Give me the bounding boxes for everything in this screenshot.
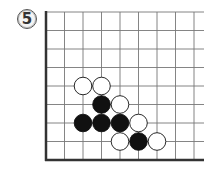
white-stone[interactable] (148, 133, 166, 151)
black-stone[interactable] (93, 114, 111, 132)
white-stone[interactable] (74, 77, 92, 95)
black-stone[interactable] (130, 133, 148, 151)
white-stone[interactable] (130, 114, 148, 132)
white-stone[interactable] (93, 77, 111, 95)
black-stone[interactable] (111, 114, 129, 132)
black-stone[interactable] (93, 96, 111, 114)
white-stone[interactable] (111, 96, 129, 114)
go-board[interactable] (0, 0, 216, 169)
white-stone[interactable] (111, 133, 129, 151)
black-stone[interactable] (74, 114, 92, 132)
